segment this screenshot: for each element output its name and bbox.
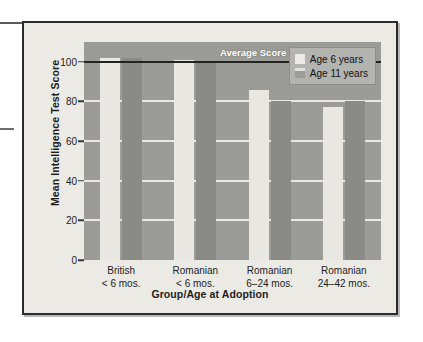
x-axis-label: Romanian6–24 mos.: [246, 264, 293, 290]
page-rule-mark-middle: [0, 128, 14, 130]
y-tick-label: 100: [60, 56, 77, 67]
legend-swatch-icon-age6: [295, 54, 305, 64]
legend: Age 6 years Age 11 years: [289, 47, 376, 85]
x-axis-label: Romanian< 6 mos.: [173, 264, 219, 290]
plot-area: Average Score Age 6 years Age 11 years: [84, 42, 381, 260]
x-axis-label: British< 6 mos.: [102, 264, 141, 290]
x-axis-title: Group/Age at Adoption: [24, 288, 396, 300]
average-score-label: Average Score: [220, 47, 286, 58]
y-tick-label: 20: [66, 215, 77, 226]
y-axis-ticks: 020406080100: [44, 42, 84, 260]
bar-age11: [271, 101, 291, 260]
bar-age6: [323, 107, 343, 260]
bar-age11: [345, 101, 365, 260]
legend-swatch-icon-age11: [295, 68, 305, 78]
legend-label-age11: Age 11 years: [310, 68, 368, 79]
bar-age11: [196, 62, 216, 260]
legend-item-age11: Age 11 years: [295, 66, 368, 80]
page-rule-mark-top: [0, 22, 22, 24]
y-tick-label: 40: [66, 175, 77, 186]
y-tick-label: 80: [66, 96, 77, 107]
bar-age6: [100, 58, 120, 260]
bar-age6: [249, 90, 269, 260]
x-axis-label: Romanian24–42 mos.: [318, 264, 370, 290]
bar-age11: [122, 58, 142, 260]
legend-item-age6: Age 6 years: [295, 52, 368, 66]
bar-age6: [174, 60, 194, 260]
figure-card: Mean Intelligence Test Score 02040608010…: [22, 21, 398, 315]
y-tick-label: 60: [66, 136, 77, 147]
legend-label-age6: Age 6 years: [310, 54, 363, 65]
y-tick-label: 0: [71, 255, 77, 266]
